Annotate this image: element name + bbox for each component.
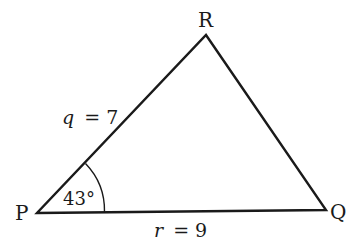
triangle-pqr	[37, 35, 326, 213]
side-label-q: q = 7	[62, 106, 118, 128]
side-val-r: = 9	[173, 219, 207, 241]
side-label-r: r = 9	[154, 219, 207, 241]
side-val-q: = 7	[84, 106, 118, 128]
triangle-diagram: R P Q q = 7 r = 9 43°	[0, 0, 357, 245]
side-var-q: q	[62, 106, 74, 128]
vertex-label-r: R	[198, 8, 214, 32]
side-var-r: r	[154, 219, 165, 241]
vertex-label-q: Q	[330, 200, 346, 224]
angle-label-p: 43°	[63, 188, 95, 209]
vertex-label-p: P	[15, 201, 28, 225]
